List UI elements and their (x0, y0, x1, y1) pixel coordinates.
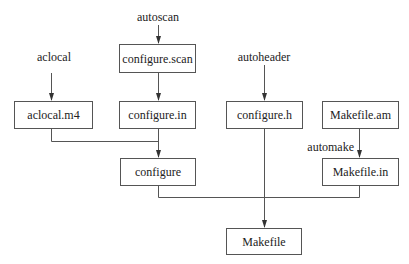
node-label: configure.h (237, 109, 292, 121)
tool-label-aclocal: aclocal (37, 51, 71, 63)
node-makefile-in: Makefile.in (322, 158, 399, 186)
arrowhead-icon (262, 220, 267, 228)
node-makefile: Makefile (226, 228, 302, 255)
node-label: aclocal.m4 (27, 109, 79, 121)
node-label: configure.scan (122, 53, 192, 65)
arrowhead-icon (156, 93, 161, 101)
node-label: Makefile.in (333, 166, 389, 178)
edge-configure-to-makefile (159, 185, 360, 198)
node-configure-h: configure.h (226, 101, 303, 129)
node-label: Makefile.am (330, 109, 391, 121)
autotools-flow-diagram: aclocal autoscan autoheader automake acl… (0, 0, 409, 264)
arrowheads (49, 36, 362, 228)
arrowhead-icon (156, 150, 161, 158)
node-label: Makefile (242, 236, 285, 248)
arrowhead-icon (49, 93, 54, 101)
connector-lines (0, 0, 409, 264)
node-configure: configure (120, 158, 196, 186)
arrowhead-icon (357, 150, 362, 158)
node-label: configure (135, 166, 181, 178)
node-makefile-am: Makefile.am (322, 101, 399, 129)
edge-aclocal-m4-to-configure (52, 128, 159, 142)
node-label: configure.in (128, 109, 186, 121)
tool-label-automake: automake (307, 141, 354, 153)
tool-label-autoscan: autoscan (137, 11, 179, 23)
tool-label-autoheader: autoheader (238, 51, 291, 63)
arrowhead-icon (156, 36, 161, 44)
node-aclocal-m4: aclocal.m4 (14, 101, 93, 129)
node-configure-scan: configure.scan (119, 44, 196, 73)
node-configure-in: configure.in (119, 101, 196, 129)
arrowhead-icon (262, 93, 267, 101)
